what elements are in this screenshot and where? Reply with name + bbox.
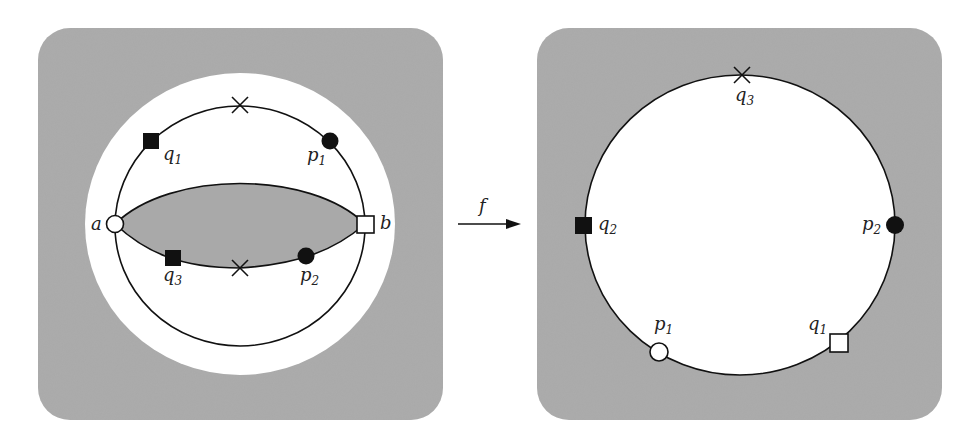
filled-square-q2 [575, 217, 592, 234]
diagram-canvas: a b q1 p1 q3 p2 f q3 q2 p2 p1 q1 [0, 0, 979, 442]
arrowhead-icon [506, 219, 521, 229]
left-panel: a b q1 p1 q3 p2 [38, 28, 443, 420]
filled-square-q1 [143, 133, 159, 149]
right-panel: q3 q2 p2 p1 q1 [537, 28, 942, 420]
open-square-q1 [830, 334, 848, 352]
right-circle [585, 75, 895, 375]
map-arrow: f [458, 195, 521, 229]
open-circle-p1 [650, 343, 668, 361]
arrow-label-f: f [477, 195, 489, 216]
label-a: a [91, 213, 102, 234]
open-square-b [357, 216, 374, 233]
filled-circle-p2 [298, 248, 315, 265]
open-circle-a [107, 216, 124, 233]
filled-circle-p1 [322, 133, 339, 150]
filled-circle-p2 [886, 216, 904, 234]
label-b: b [380, 212, 392, 233]
